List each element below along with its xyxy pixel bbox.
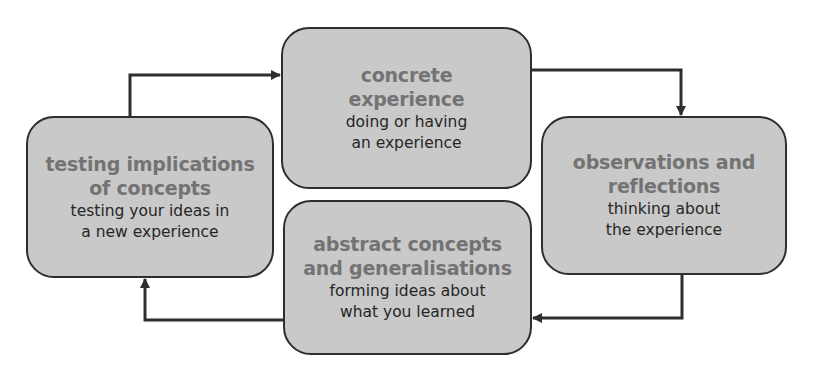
node-observations-reflections: observations and reflections thinking ab…	[541, 116, 787, 275]
arrow-concrete-to-observations	[532, 70, 681, 115]
node-description: testing your ideas in a new experience	[71, 201, 230, 243]
arrow-testing-to-concrete	[130, 75, 280, 116]
node-testing-implications: testing implications of concepts testing…	[26, 116, 274, 278]
node-title: observations and reflections	[573, 150, 755, 198]
learning-cycle-diagram: concrete experience doing or having an e…	[0, 0, 815, 376]
node-description: doing or having an experience	[346, 112, 467, 154]
node-description: forming ideas about what you learned	[330, 281, 486, 323]
node-concrete-experience: concrete experience doing or having an e…	[281, 27, 532, 189]
arrow-abstract-to-testing	[145, 279, 283, 320]
arrow-observations-to-abstract	[533, 275, 682, 318]
node-abstract-concepts: abstract concepts and generalisations fo…	[283, 200, 532, 355]
node-description: thinking about the experience	[606, 199, 722, 241]
node-title: testing implications of concepts	[45, 152, 254, 200]
node-title: concrete experience	[348, 63, 464, 111]
node-title: abstract concepts and generalisations	[303, 232, 512, 280]
